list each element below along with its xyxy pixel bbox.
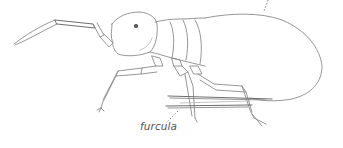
hind-leg — [190, 66, 266, 126]
head — [111, 12, 157, 56]
top-leader-line — [264, 0, 268, 11]
antenna — [14, 20, 113, 47]
furcula — [166, 96, 272, 108]
thorax — [150, 18, 205, 66]
furcula-label: furcula — [140, 120, 177, 132]
illustration-canvas: furcula — [0, 0, 343, 148]
front-leg — [97, 56, 163, 112]
abdomen — [205, 14, 322, 101]
eye-icon — [134, 24, 138, 28]
middle-leg — [172, 58, 197, 122]
